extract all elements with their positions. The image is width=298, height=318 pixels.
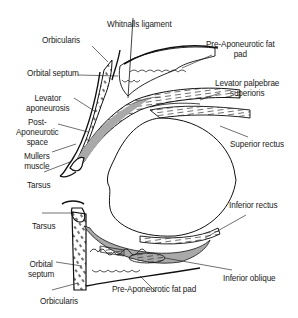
- label-tarsus-lower: Tarsus: [32, 222, 56, 232]
- label-tarsus-upper: Tarsus: [27, 181, 51, 191]
- label-orbicularis-upper: Orbicularis: [42, 36, 80, 46]
- label-inferior-oblique: Inferior oblique: [223, 274, 276, 284]
- label-post-aponeurotic-space: Post- Aponeurotic space: [16, 118, 59, 148]
- label-pre-aponeurotic-fat-pad-lower: Pre-Aponeurotic fat pad: [112, 285, 196, 295]
- label-inferior-rectus: Inferior rectus: [229, 201, 278, 211]
- label-levator-palpebrae-superioris: Levator palpebrae superioris: [215, 79, 279, 99]
- superior-rectus: [150, 106, 250, 118]
- globe-outline: [107, 118, 236, 236]
- label-orbital-septum-lower: Orbital septum: [28, 260, 54, 280]
- label-pre-aponeurotic-fat-pad-upper: Pre-Aponeurotic fat pad: [206, 40, 275, 60]
- label-levator-aponeurosis: Levator aponeurosis: [26, 94, 70, 114]
- lower-orbicularis: [72, 212, 86, 290]
- label-mullers-muscle: Mullers muscle: [24, 152, 50, 172]
- label-orbicularis-lower: Orbicularis: [40, 297, 78, 307]
- label-whitnalls-ligament: Whitnalls ligament: [107, 20, 172, 30]
- inferior-oblique: [129, 253, 165, 263]
- label-orbital-septum-upper: Orbital septum: [27, 69, 79, 79]
- label-superior-rectus: Superior rectus: [230, 140, 284, 150]
